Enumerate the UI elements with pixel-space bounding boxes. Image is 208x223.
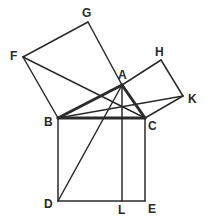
pythagorean-diagram: ABCDEFGHKL xyxy=(0,0,208,223)
point-label-e: E xyxy=(148,202,156,216)
point-label-h: H xyxy=(155,45,164,59)
point-label-l: L xyxy=(118,203,125,217)
point-label-d: D xyxy=(44,197,53,211)
point-label-f: F xyxy=(10,49,17,63)
square-ab-side-ga xyxy=(88,22,122,85)
square-ac-side-ah xyxy=(122,60,161,85)
point-label-a: A xyxy=(118,68,127,82)
point-label-c: C xyxy=(148,119,157,133)
square-ac-side-hk xyxy=(161,60,183,96)
labels-group: ABCDEFGHKL xyxy=(10,6,197,217)
point-label-b: B xyxy=(44,115,53,129)
square-ab-side-fg xyxy=(23,22,88,57)
point-label-k: K xyxy=(188,92,197,106)
point-label-g: G xyxy=(82,6,91,20)
